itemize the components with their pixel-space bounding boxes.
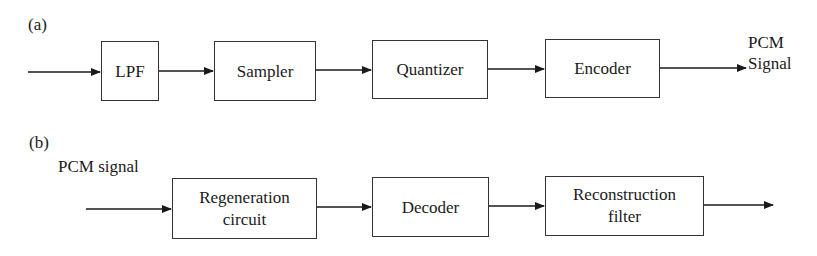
output-label-line1: PCM xyxy=(748,32,791,53)
block-encoder-label: Encoder xyxy=(574,59,631,78)
block-sampler-label: Sampler xyxy=(237,62,294,81)
output-label-pcm-signal: PCM Signal xyxy=(748,32,791,74)
block-decoder-label: Decoder xyxy=(402,198,460,217)
block-regeneration-label-line2: circuit xyxy=(223,209,266,231)
input-label-pcm-signal: PCM signal xyxy=(58,158,139,176)
block-reconstruction-label-line2: filter xyxy=(608,206,641,228)
output-label-line2: Signal xyxy=(748,53,791,74)
block-regeneration-circuit: Regeneration circuit xyxy=(172,178,317,239)
block-quantizer: Quantizer xyxy=(372,40,488,99)
block-reconstruction-filter: Reconstruction filter xyxy=(545,176,704,236)
block-lpf: LPF xyxy=(101,41,159,101)
block-encoder: Encoder xyxy=(545,39,660,98)
block-quantizer-label: Quantizer xyxy=(396,60,463,79)
diagram-a-label: (a) xyxy=(28,16,47,34)
diagram-b-label: (b) xyxy=(29,134,49,152)
block-lpf-label: LPF xyxy=(115,62,144,81)
block-reconstruction-label-line1: Reconstruction xyxy=(573,184,676,206)
block-decoder: Decoder xyxy=(372,177,489,237)
block-regeneration-label-line1: Regeneration xyxy=(199,187,290,209)
block-sampler: Sampler xyxy=(214,41,316,101)
